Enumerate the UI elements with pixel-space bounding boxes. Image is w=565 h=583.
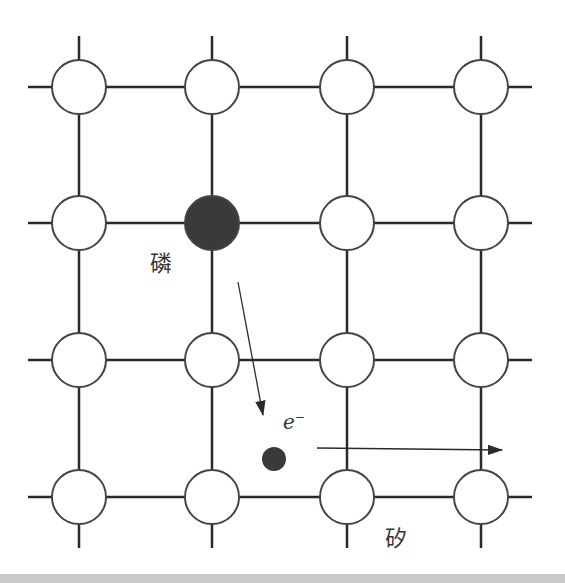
arrow-dopant-to-electron [238,282,263,415]
silicon-label: 矽 [385,528,407,550]
bottom-band [0,574,565,583]
silicon-atom [52,60,106,114]
lattice-svg [0,0,565,583]
silicon-atom [454,60,508,114]
silicon-atom [52,470,106,524]
electron-symbol: e [283,410,295,434]
silicon-atom [320,333,374,387]
silicon-atom [454,333,508,387]
silicon-atom [320,196,374,250]
silicon-atom [185,470,239,524]
silicon-atom [454,470,508,524]
silicon-lattice-diagram: 磷 e− 矽 [0,0,565,583]
arrow-electron-drift [317,448,502,450]
silicon-atom [320,470,374,524]
silicon-atom [454,196,508,250]
electron-charge: − [295,410,305,424]
silicon-atom [185,333,239,387]
silicon-atom [52,333,106,387]
phosphorus-label: 磷 [150,253,172,275]
silicon-atom [52,196,106,250]
silicon-atom [320,60,374,114]
free-electron [262,447,286,471]
silicon-atom [185,60,239,114]
phosphorus-atom [185,196,239,250]
electron-label: e− [283,411,305,432]
